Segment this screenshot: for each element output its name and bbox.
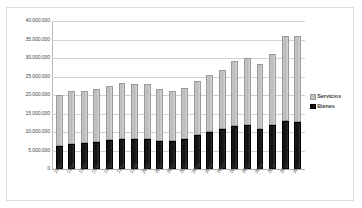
- y-axis-tick-label: 30.000.000: [6, 55, 50, 60]
- bar-column: [216, 21, 229, 169]
- bar-segment-servicios: [93, 89, 100, 142]
- bar-column: [103, 21, 116, 169]
- bar-stack: [269, 54, 276, 169]
- bar-segment-servicios: [219, 70, 226, 129]
- bar-stack: [56, 95, 63, 169]
- bar-column: [291, 21, 304, 169]
- y-axis-tick-label: 10.000.000: [6, 129, 50, 134]
- x-axis-tick-cell: 2001: [153, 171, 166, 199]
- bar-segment-servicios: [56, 95, 63, 146]
- x-axis-tick-cell: 1993: [53, 171, 66, 199]
- bar-column: [254, 21, 267, 169]
- bar-stack: [93, 89, 100, 169]
- x-axis-tick-cell: 2006: [216, 171, 229, 199]
- x-axis-tick-cell: 1996: [91, 171, 104, 199]
- chart-figure: 40.000.00035.000.00030.000.00025.000.000…: [6, 7, 354, 201]
- x-axis-tick-cell: 2012: [291, 171, 304, 199]
- y-axis-tick-labels: 40.000.00035.000.00030.000.00025.000.000…: [7, 21, 50, 169]
- bar-segment-servicios: [156, 89, 163, 140]
- bar-stack: [294, 36, 301, 169]
- bar-stack: [244, 58, 251, 169]
- bar-column: [53, 21, 66, 169]
- x-axis-tick-cell: 1999: [128, 171, 141, 199]
- plot-area: [52, 21, 305, 169]
- x-axis-tick-cell: 2009: [254, 171, 267, 199]
- bar-column: [266, 21, 279, 169]
- bar-column: [116, 21, 129, 169]
- x-axis-tick-cell: 2004: [191, 171, 204, 199]
- y-axis-tick-label: 25.000.000: [6, 74, 50, 79]
- x-axis-tick-cell: 1998: [116, 171, 129, 199]
- bar-column: [128, 21, 141, 169]
- bar-stack: [68, 91, 75, 169]
- bar-stack: [194, 81, 201, 169]
- bar-segment-servicios: [131, 84, 138, 139]
- legend-label-bienes: Bienes: [317, 104, 335, 109]
- bar-series-group: [52, 21, 305, 169]
- bar-segment-servicios: [81, 91, 88, 143]
- x-axis-tick-cell: 2007: [229, 171, 242, 199]
- bar-segment-servicios: [282, 36, 289, 121]
- bar-stack: [106, 86, 113, 169]
- x-axis-tick-cell: 2003: [178, 171, 191, 199]
- legend-item-servicios: Servicios: [310, 94, 354, 100]
- y-axis-tick-label: 35.000.000: [6, 37, 50, 42]
- x-axis-tick-cell: 2000: [141, 171, 154, 199]
- bar-stack: [144, 84, 151, 169]
- y-axis-tick-label: 15.000.000: [6, 111, 50, 116]
- bar-stack: [257, 64, 264, 169]
- x-axis-tick-cell: 2002: [166, 171, 179, 199]
- x-axis-tick-cell: 2008: [241, 171, 254, 199]
- bar-column: [66, 21, 79, 169]
- bar-column: [91, 21, 104, 169]
- bar-stack: [81, 91, 88, 169]
- bar-segment-servicios: [244, 58, 251, 125]
- legend-swatch-servicios-icon: [310, 94, 316, 100]
- bar-column: [153, 21, 166, 169]
- bar-segment-servicios: [294, 36, 301, 122]
- bar-stack: [169, 91, 176, 169]
- bar-column: [229, 21, 242, 169]
- bar-stack: [282, 36, 289, 169]
- bar-column: [204, 21, 217, 169]
- x-axis-tick-cell: 1994: [66, 171, 79, 199]
- y-axis-tick-label: 20.000.000: [6, 92, 50, 97]
- bar-column: [166, 21, 179, 169]
- bar-segment-servicios: [206, 75, 213, 132]
- bar-column: [78, 21, 91, 169]
- y-axis-tick-label: 40.000.000: [6, 18, 50, 23]
- bar-stack: [156, 89, 163, 169]
- bar-segment-servicios: [106, 86, 113, 140]
- y-axis-tick-label: 0: [6, 166, 50, 171]
- bar-segment-servicios: [194, 81, 201, 135]
- x-axis-tick-labels: 1993199419951996199719981999200020012002…: [52, 171, 305, 199]
- x-axis-tick-cell: 1995: [78, 171, 91, 199]
- x-axis-tick-cell: 1997: [103, 171, 116, 199]
- bar-segment-servicios: [68, 91, 75, 144]
- legend-item-bienes: Bienes: [310, 104, 354, 110]
- legend-label-servicios: Servicios: [317, 94, 341, 99]
- y-axis-tick-label: 5.000.000: [6, 148, 50, 153]
- x-axis-tick-cell: 2010: [266, 171, 279, 199]
- bar-segment-servicios: [181, 88, 188, 140]
- bar-segment-servicios: [119, 83, 126, 139]
- bar-stack: [231, 61, 238, 169]
- bar-column: [141, 21, 154, 169]
- x-axis-tick-cell: 2011: [279, 171, 292, 199]
- chart-legend: Servicios Bienes: [310, 94, 354, 113]
- bar-segment-servicios: [257, 64, 264, 128]
- legend-swatch-bienes-icon: [310, 104, 316, 110]
- bar-column: [241, 21, 254, 169]
- x-axis-tick-cell: 2005: [204, 171, 217, 199]
- bar-stack: [219, 70, 226, 169]
- bar-column: [279, 21, 292, 169]
- bar-stack: [131, 84, 138, 169]
- bar-segment-servicios: [269, 54, 276, 125]
- bar-segment-servicios: [144, 84, 151, 139]
- bar-stack: [206, 75, 213, 169]
- bar-stack: [181, 88, 188, 169]
- bar-segment-servicios: [169, 91, 176, 141]
- bar-column: [178, 21, 191, 169]
- bar-stack: [119, 83, 126, 169]
- bar-column: [191, 21, 204, 169]
